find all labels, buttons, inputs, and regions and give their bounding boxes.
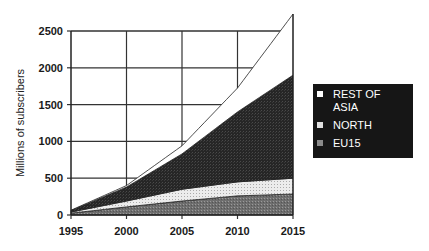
legend-item-eu15: EU15 <box>313 137 413 150</box>
legend-label: REST OF <box>333 88 413 101</box>
x-tick-label: 2015 <box>281 225 305 237</box>
legend-swatch-eu15 <box>317 140 323 146</box>
legend-label: EU15 <box>333 137 361 149</box>
legend-swatch-north <box>317 122 323 128</box>
y-tick-label: 1500 <box>39 99 63 111</box>
legend-label: NORTH <box>333 119 372 131</box>
y-axis-title: Millions of subscribers <box>14 68 26 177</box>
x-tick-label: 2005 <box>170 225 194 237</box>
y-tick-label: 1000 <box>39 135 63 147</box>
legend-swatch-rest-of-asia <box>317 91 323 97</box>
legend-label: ASIA <box>333 101 413 114</box>
x-tick-label: 1995 <box>59 225 83 237</box>
legend-item-north: NORTH <box>313 119 413 132</box>
y-tick-label: 0 <box>57 209 63 221</box>
x-tick-label: 2010 <box>225 225 249 237</box>
x-tick-label: 2000 <box>114 225 138 237</box>
y-tick-label: 2500 <box>39 25 63 37</box>
legend-item-rest-of-asia: REST OF ASIA <box>313 88 413 114</box>
y-tick-label: 2000 <box>39 62 63 74</box>
legend: REST OF ASIA NORTH EU15 <box>313 84 413 158</box>
y-tick-label: 500 <box>45 172 63 184</box>
